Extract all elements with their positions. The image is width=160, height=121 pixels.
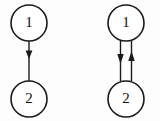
node-label: 1 (122, 14, 130, 30)
node-right-1[interactable]: 1 (108, 5, 144, 41)
right-graph: 1 2 (108, 5, 144, 117)
left-graph: 1 2 (11, 5, 47, 117)
arrowhead-down-icon (26, 51, 33, 60)
edge-right-2-to-1 (128, 41, 134, 81)
edge-left-1-to-2 (26, 41, 33, 81)
diagram-canvas: 1 2 1 (0, 0, 160, 121)
edge-right-1-to-2 (117, 41, 123, 81)
node-label: 2 (122, 90, 130, 106)
node-right-2[interactable]: 2 (108, 81, 144, 117)
arrowhead-down-icon (117, 54, 123, 64)
node-label: 1 (25, 14, 33, 30)
node-left-1[interactable]: 1 (11, 5, 47, 41)
directed-graph-figure: 1 2 1 (0, 0, 160, 121)
arrowhead-up-icon (128, 51, 134, 61)
node-left-2[interactable]: 2 (11, 81, 47, 117)
node-label: 2 (25, 90, 33, 106)
